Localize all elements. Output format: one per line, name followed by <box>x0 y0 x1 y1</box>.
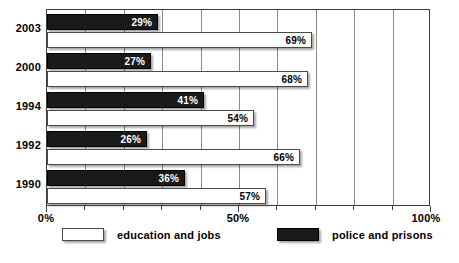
x-axis-label-100: 100% <box>404 212 448 224</box>
x-tick-60 <box>276 206 277 210</box>
x-axis-label-0: 0% <box>24 212 68 224</box>
x-tick-70 <box>315 206 316 210</box>
bar-value-education-2003: 69% <box>285 35 311 46</box>
bar-education-1990: 57% <box>47 188 266 204</box>
y-axis-label-1990: 1990 <box>0 178 41 190</box>
gridline-70 <box>316 10 317 205</box>
legend-swatch-light-icon <box>62 228 104 241</box>
bar-value-education-1994: 54% <box>227 113 253 124</box>
legend-item-education-and-jobs: education and jobs <box>62 228 221 241</box>
bar-education-2000: 68% <box>47 71 308 87</box>
bar-value-police-2003: 29% <box>131 17 157 28</box>
bar-value-education-2000: 68% <box>281 74 307 85</box>
y-axis-label-1992: 1992 <box>0 139 41 151</box>
bar-education-1994: 54% <box>47 110 254 126</box>
bar-value-police-1994: 41% <box>177 95 203 106</box>
bar-police-1994: 41% <box>47 92 204 108</box>
bar-chart: 2003 2000 1994 1992 1990 29% 69% 27% 68%… <box>0 0 459 263</box>
bar-value-education-1992: 66% <box>273 152 299 163</box>
bar-police-2000: 27% <box>47 53 151 69</box>
x-axis-label-50: 50% <box>216 212 260 224</box>
bar-value-police-1990: 36% <box>158 173 184 184</box>
x-tick-10 <box>84 206 85 210</box>
y-axis-label-2003: 2003 <box>0 22 41 34</box>
gridline-80 <box>354 10 355 205</box>
bar-police-1990: 36% <box>47 170 185 186</box>
legend-item-police-and-prisons: police and prisons <box>277 228 433 241</box>
bar-value-police-1992: 26% <box>120 134 146 145</box>
legend-label-education-and-jobs: education and jobs <box>117 229 221 241</box>
bar-education-1992: 66% <box>47 149 300 165</box>
bar-value-education-1990: 57% <box>239 191 265 202</box>
legend-swatch-dark-icon <box>277 228 319 241</box>
bar-police-1992: 26% <box>47 131 147 147</box>
x-tick-40 <box>200 206 201 210</box>
legend-label-police-and-prisons: police and prisons <box>332 229 433 241</box>
x-tick-80 <box>353 206 354 210</box>
bar-value-police-2000: 27% <box>124 56 150 67</box>
bar-education-2003: 69% <box>47 32 312 48</box>
x-tick-20 <box>123 206 124 210</box>
chart-legend: education and jobs police and prisons <box>0 228 459 250</box>
y-axis-label-2000: 2000 <box>0 61 41 73</box>
gridline-90 <box>393 10 394 205</box>
figure-caption-cropped <box>0 256 459 263</box>
x-tick-30 <box>161 206 162 210</box>
bar-police-2003: 29% <box>47 14 158 30</box>
x-tick-90 <box>392 206 393 210</box>
y-axis-label-1994: 1994 <box>0 100 41 112</box>
plot-area: 29% 69% 27% 68% 41% 54% 26% 66% 36% <box>46 9 430 206</box>
